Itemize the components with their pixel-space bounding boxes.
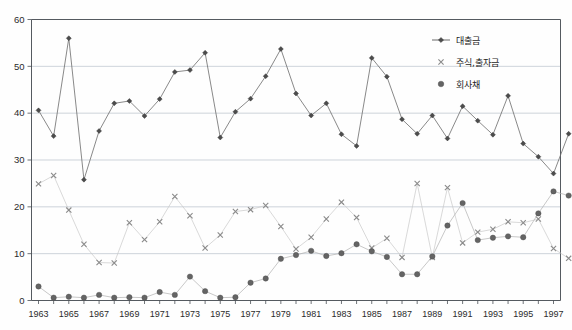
x-axis-tick-label: 1973: [180, 309, 200, 319]
bonds-marker: [354, 242, 359, 247]
bonds-marker: [233, 295, 238, 300]
bonds-marker: [521, 235, 526, 240]
bonds-marker: [475, 237, 480, 242]
bonds-marker: [551, 189, 556, 194]
y-axis-tick-label: 20: [14, 201, 25, 212]
legend-marker-bonds: [438, 81, 444, 87]
x-axis-tick-label: 1963: [28, 309, 48, 319]
bonds-marker: [187, 274, 192, 279]
bonds-marker: [51, 295, 56, 300]
bonds-marker: [566, 193, 571, 198]
x-axis-tick-label: 1983: [331, 309, 351, 319]
x-axis-tick-label: 1991: [453, 309, 473, 319]
bonds-marker: [96, 292, 101, 297]
x-axis-tick-label: 1997: [543, 309, 563, 319]
bonds-marker: [202, 288, 207, 293]
x-axis-tick-label: 1975: [210, 309, 230, 319]
y-axis-tick-label: 10: [14, 248, 25, 259]
y-axis-tick-label: 0: [19, 295, 24, 306]
legend-label-bonds: 회사채: [456, 80, 480, 90]
bonds-marker: [399, 272, 404, 277]
x-axis-tick-label: 1965: [59, 309, 79, 319]
chart-container: 0102030405060 19631965196719691971197319…: [0, 0, 572, 330]
bonds-marker: [536, 211, 541, 216]
y-axis-tick-label: 40: [14, 107, 25, 118]
bonds-marker: [414, 272, 419, 277]
bonds-marker: [112, 295, 117, 300]
bonds-marker: [263, 276, 268, 281]
bonds-marker: [248, 280, 253, 285]
y-axis-tick-label: 50: [14, 61, 25, 72]
line-chart: 0102030405060 19631965196719691971197319…: [0, 0, 572, 330]
y-axis-tick-label: 30: [14, 154, 25, 165]
x-axis-tick-label: 1995: [513, 309, 533, 319]
bonds-marker: [36, 284, 41, 289]
bonds-marker: [324, 253, 329, 258]
x-axis-tick-label: 1979: [271, 309, 291, 319]
bonds-marker: [490, 235, 495, 240]
bonds-marker: [293, 252, 298, 257]
x-axis-tick-label: 1993: [483, 309, 503, 319]
x-axis-tick-label: 1977: [241, 309, 261, 319]
x-axis-tick-label: 1985: [362, 309, 382, 319]
x-axis-tick-label: 1981: [301, 309, 321, 319]
bonds-marker: [430, 254, 435, 259]
bonds-marker: [127, 295, 132, 300]
bonds-marker: [505, 234, 510, 239]
bonds-marker: [384, 254, 389, 259]
x-axis-tick-label: 1969: [119, 309, 139, 319]
bonds-marker: [339, 251, 344, 256]
legend-label-stocks: 주식,출자금: [456, 58, 499, 68]
bonds-marker: [460, 200, 465, 205]
x-axis-tick-label: 1971: [150, 309, 170, 319]
bonds-marker: [172, 292, 177, 297]
bonds-marker: [81, 295, 86, 300]
y-axis-tick-label: 60: [14, 14, 25, 25]
chart-background: [0, 0, 572, 330]
x-axis-tick-label: 1967: [89, 309, 109, 319]
bonds-marker: [445, 223, 450, 228]
bonds-marker: [369, 249, 374, 254]
x-axis-tick-label: 1987: [392, 309, 412, 319]
bonds-marker: [278, 256, 283, 261]
bonds-marker: [218, 295, 223, 300]
x-axis-tick-label: 1989: [422, 309, 442, 319]
bonds-marker: [308, 248, 313, 253]
bonds-marker: [142, 295, 147, 300]
bonds-marker: [157, 289, 162, 294]
legend-label-loans: 대출금: [456, 36, 480, 46]
bonds-marker: [66, 294, 71, 299]
